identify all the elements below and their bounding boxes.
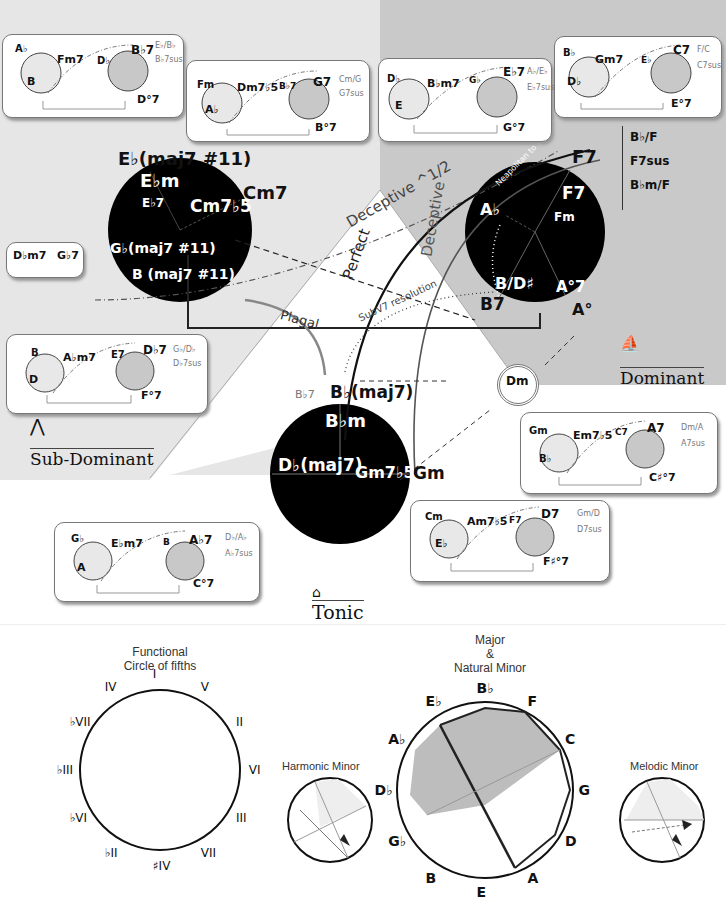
dm-ring-label: Dm (506, 374, 528, 388)
card-label: B♭m7 (427, 77, 460, 90)
ring-label: ♯IV (153, 859, 171, 873)
card-sub: A♭/E♭ (527, 67, 548, 76)
ring-label: E (477, 884, 487, 900)
card-label: Am7♭5 (467, 515, 507, 528)
dom-wheel-label-f7: F7 (562, 183, 585, 203)
card-label: B♭7 (131, 43, 154, 57)
dominant-title: Dominant (620, 367, 704, 388)
card-wheels (187, 61, 369, 141)
card-label: E♭ (435, 537, 448, 550)
ring-label: VI (249, 763, 261, 777)
ring-label: G (579, 782, 591, 798)
sd-wheel-label-ebm: E♭m (140, 170, 180, 191)
card-label: C°7 (193, 577, 214, 590)
card-label: D♭ (97, 55, 110, 66)
card-label: Gm7 (595, 53, 623, 66)
card-sub: A7sus (681, 439, 705, 448)
major-title-line1: Major (440, 633, 540, 647)
dom-wheel-bottom-right-label: A° (572, 300, 592, 319)
ring-label: ♭III (57, 763, 73, 777)
card-label: Cm (425, 511, 443, 522)
ring-label: ♭II (105, 846, 118, 860)
chord-card-t1: G♭ E♭m7 A B A♭7 C°7 D♭/A♭ A♭7sus (54, 522, 260, 602)
sd-wheel-label-gb: G♭(maj7 #11) (110, 240, 216, 256)
card-label: G°7 (503, 121, 525, 134)
ring-label: VII (201, 846, 216, 860)
card-sub: C7sus (697, 61, 721, 70)
card-sub: D♭/A♭ (225, 533, 247, 542)
subdominant-title: Sub-Dominant (30, 448, 154, 469)
tonic-wheel-left-small: B♭7 (295, 388, 315, 401)
card-label: C7 (673, 43, 690, 57)
card-sub: A♭7sus (225, 549, 253, 558)
card-label: B (163, 537, 170, 547)
tonic-wheel-label-bbm: B♭m (325, 410, 366, 431)
card-label: F7 (509, 515, 521, 525)
harmonic-circle (280, 772, 380, 872)
major-title-line3: Natural Minor (440, 661, 540, 675)
ring-label: B♭ (477, 680, 494, 696)
card-label: E (395, 99, 403, 112)
ring-label: A (528, 870, 539, 886)
card-label: G7 (313, 75, 331, 89)
card-label: D♭ (567, 75, 581, 88)
card-label: D♭7 (143, 343, 167, 357)
sd-wheel-right-label: Cm7 (243, 182, 288, 203)
card-label: A♭m7 (63, 351, 96, 364)
chord-card-sd1: A♭ Fm7 B D♭ B♭7 D°7 E♭/B♭ B♭7sus (2, 34, 184, 118)
harmonic-title: Harmonic Minor (282, 760, 360, 772)
functional-title-line1: Functional (100, 645, 220, 659)
card-label: D♭ (387, 73, 400, 84)
card-label: B♭ (563, 47, 575, 58)
card-label: B (31, 347, 39, 358)
ring-label: I (153, 667, 157, 681)
ring-label: III (236, 811, 247, 825)
major-title-line2: & (440, 647, 540, 661)
house-icon: ⌂ (312, 584, 321, 600)
card-sub: G7sus (339, 89, 364, 98)
ring-label: ♭VII (70, 715, 91, 729)
card-label: Fm7 (57, 53, 84, 66)
card-label: E♭ (641, 55, 651, 65)
major-title: Major & Natural Minor (440, 633, 540, 675)
card-sub: Cm/G (339, 75, 361, 84)
card-label: D (29, 373, 38, 386)
functional-title: Functional Circle of fifths (100, 645, 220, 673)
card-sub: D♭7sus (173, 359, 201, 368)
dom-wheel-label-bdsharp: B/D♯ (495, 274, 534, 293)
dom-wheel-top-label: F7 (572, 146, 597, 167)
card-sub: E♭/B♭ (155, 41, 176, 50)
chord-card-d1: D♭ B♭m7 E G♭ E♭7 G°7 A♭/E♭ E♭7sus (378, 58, 552, 142)
card-label: Gm (529, 425, 548, 436)
f7-substitute: B♭/F (630, 130, 657, 144)
card-label: G♭ (469, 75, 481, 85)
ring-label: V (201, 680, 209, 694)
chord-card-t3: Gm Em7♭5 B♭ C7 A7 C♯°7 Dm/A A7sus (520, 412, 718, 494)
major-circle (385, 690, 585, 880)
ring-label: A♭ (388, 731, 405, 747)
ring-label: G♭ (388, 833, 406, 849)
card-label: B (27, 75, 35, 88)
card-label: E°7 (671, 97, 692, 110)
card-label: D°7 (137, 93, 159, 106)
card-label: A♭ (15, 43, 27, 54)
sd-wheel-top-label: E♭(maj7 #11) (118, 148, 251, 169)
functional-title-line2: Circle of fifths (100, 659, 220, 673)
dom-wheel-label-fm: Fm (554, 210, 575, 224)
card-label: Dm7♭5 (237, 81, 278, 94)
card-sub: D7sus (577, 525, 602, 534)
dom-wheel-bottom-left-label: B7 (480, 294, 505, 314)
sd-wheel-label-eb7: E♭7 (142, 196, 164, 210)
f7-substitute: F7sus (630, 154, 669, 168)
card-label: C♯°7 (649, 471, 676, 484)
card-label: G♭ (71, 533, 84, 544)
ring-label: IV (105, 680, 117, 694)
ring-label: F (528, 693, 538, 709)
card-sub: F/C (697, 45, 710, 54)
tonic-wheel-label-gm7b5: Gm7♭5 (355, 463, 415, 482)
card-sub: Dm/A (681, 423, 703, 432)
small-chord-card: D♭m7 G♭7 (6, 242, 84, 278)
card-label: Em7♭5 (573, 429, 612, 442)
card-label: Fm (197, 79, 214, 90)
f7-substitutes-bracket (622, 126, 629, 210)
